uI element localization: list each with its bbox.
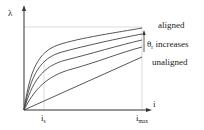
- curve-aligned: [24, 28, 142, 110]
- y-axis-label: λ: [8, 8, 13, 18]
- x-axis-arrow-icon: [146, 108, 152, 112]
- curve-3: [24, 40, 142, 110]
- lambda-vs-current-diagram: λ i is imax aligned θr increases unalign…: [0, 0, 204, 130]
- tick-imax: imax: [136, 113, 148, 124]
- x-axis-label: i: [153, 99, 156, 109]
- increase-arrow-icon: [142, 30, 145, 35]
- y-axis-arrow-icon: [22, 5, 26, 11]
- label-aligned: aligned: [158, 20, 185, 30]
- tick-is: is: [41, 113, 46, 124]
- label-unaligned: unaligned: [152, 57, 188, 67]
- label-theta-increases: θr increases: [147, 39, 189, 50]
- curve-2: [24, 34, 142, 110]
